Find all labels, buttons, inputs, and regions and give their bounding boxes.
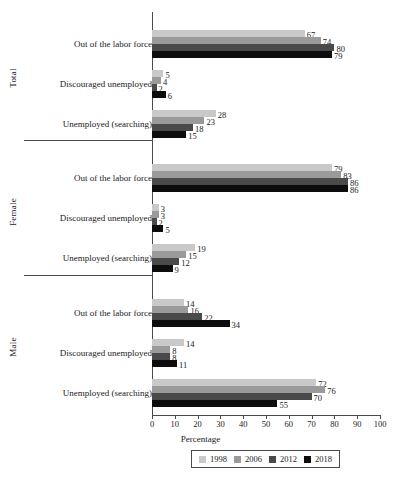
- bar: [152, 185, 348, 192]
- category-label: Discouraged unemployed: [60, 79, 152, 89]
- panel-female: FemaleOut of the labor force79838686Disc…: [0, 146, 401, 280]
- legend-label: 2012: [280, 454, 297, 464]
- legend: 1998200620122018: [191, 450, 340, 468]
- panel-total: TotalOut of the labor force67748079Disco…: [0, 12, 401, 146]
- legend-swatch: [304, 456, 311, 463]
- category-label: Unemployed (searching): [63, 253, 152, 263]
- bar-value-label: 86: [350, 185, 359, 195]
- bar: [152, 225, 163, 232]
- bar: [152, 124, 193, 131]
- legend-label: 1998: [210, 454, 227, 464]
- bar-value-label: 70: [314, 393, 323, 403]
- bar: [152, 178, 348, 185]
- x-axis-title: Percentage: [0, 434, 401, 444]
- bar: [152, 171, 341, 178]
- panel-male: MaleOut of the labor force14162234Discou…: [0, 281, 401, 415]
- x-tick-label: 90: [353, 419, 362, 429]
- panel-separator: [24, 275, 152, 276]
- legend-item: 1998: [199, 454, 227, 464]
- x-tick-label: 80: [330, 419, 339, 429]
- category-label: Unemployed (searching): [63, 388, 152, 398]
- legend-item: 2006: [234, 454, 262, 464]
- bar-value-label: 5: [165, 225, 169, 235]
- bar: [152, 131, 186, 138]
- bar: [152, 30, 305, 37]
- bar: [152, 218, 157, 225]
- x-tick-label: 100: [374, 419, 387, 429]
- bar: [152, 70, 163, 77]
- bar-value-label: 34: [232, 320, 241, 330]
- x-tick-label: 40: [239, 419, 248, 429]
- bar: [152, 91, 166, 98]
- bar: [152, 204, 159, 211]
- bar: [152, 379, 316, 386]
- bar: [152, 320, 230, 327]
- category-label: Out of the labor force: [74, 308, 152, 318]
- category-label: Discouraged unemployed: [60, 213, 152, 223]
- category-label: Discouraged unemployed: [60, 348, 152, 358]
- x-tick-label: 30: [216, 419, 225, 429]
- bar-value-label: 6: [168, 91, 172, 101]
- x-tick-label: 0: [150, 419, 154, 429]
- legend-label: 2006: [245, 454, 262, 464]
- bar: [152, 386, 325, 393]
- legend-swatch: [199, 456, 206, 463]
- panel-label-male: Male: [8, 327, 18, 367]
- bar: [152, 299, 184, 306]
- category-label: Unemployed (searching): [63, 119, 152, 129]
- bar-value-label: 19: [197, 244, 206, 254]
- x-tick-label: 10: [171, 419, 180, 429]
- legend-swatch: [269, 456, 276, 463]
- bar-value-label: 28: [218, 110, 227, 120]
- bar: [152, 353, 170, 360]
- bar: [152, 265, 173, 272]
- bar: [152, 360, 177, 367]
- bar-value-label: 12: [181, 258, 190, 268]
- legend-item: 2018: [304, 454, 332, 464]
- panel-label-female: Female: [8, 192, 18, 232]
- bar-value-label: 79: [334, 51, 343, 61]
- bar-value-label: 15: [188, 131, 197, 141]
- bar: [152, 44, 334, 51]
- bar-value-label: 14: [186, 339, 195, 349]
- legend-label: 2018: [315, 454, 332, 464]
- x-tick-label: 70: [307, 419, 316, 429]
- bar: [152, 400, 277, 407]
- bar-chart: 0102030405060708090100 Percentage TotalO…: [0, 0, 401, 484]
- category-label: Out of the labor force: [74, 39, 152, 49]
- panel-separator: [24, 140, 152, 141]
- x-tick-label: 50: [262, 419, 271, 429]
- bar: [152, 51, 332, 58]
- bar-value-label: 76: [327, 386, 336, 396]
- bar-value-label: 9: [175, 265, 179, 275]
- bar: [152, 84, 157, 91]
- legend-item: 2012: [269, 454, 297, 464]
- category-label: Out of the labor force: [74, 173, 152, 183]
- bar-value-label: 4: [163, 77, 167, 87]
- bar: [152, 164, 332, 171]
- bar-value-label: 11: [179, 360, 187, 370]
- bar: [152, 346, 170, 353]
- bar-value-label: 55: [279, 400, 288, 410]
- x-tick-label: 60: [285, 419, 294, 429]
- bar: [152, 339, 184, 346]
- bar-value-label: 23: [206, 117, 215, 127]
- bar: [152, 306, 188, 313]
- x-tick-label: 20: [193, 419, 202, 429]
- bar: [152, 37, 321, 44]
- panel-label-total: Total: [8, 58, 18, 98]
- bar: [152, 313, 202, 320]
- legend-swatch: [234, 456, 241, 463]
